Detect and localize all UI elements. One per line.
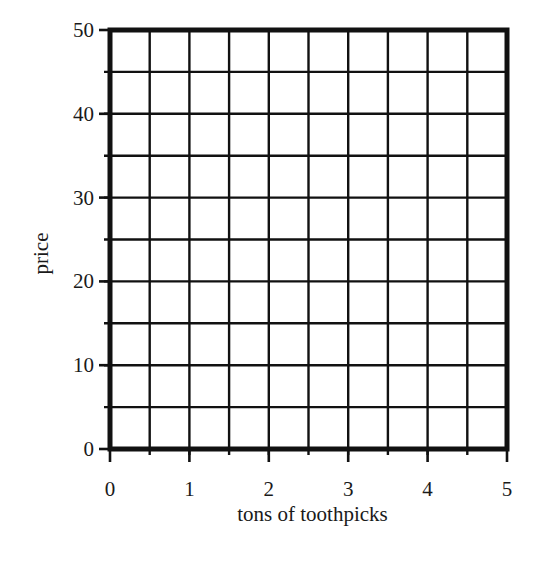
- y-tick-label: 40: [73, 102, 94, 126]
- x-tick-label: 0: [105, 477, 116, 501]
- x-tick-label: 4: [422, 477, 433, 501]
- y-tick-label: 20: [73, 269, 94, 293]
- x-tick-label: 3: [343, 477, 354, 501]
- y-tick-label: 0: [84, 437, 95, 461]
- x-axis-label: tons of toothpicks: [237, 502, 388, 526]
- chart: 01234501020304050tons of toothpicksprice: [0, 0, 535, 562]
- y-tick-label: 50: [73, 18, 94, 42]
- y-tick-label: 10: [73, 353, 94, 377]
- y-tick-label: 30: [73, 186, 94, 210]
- x-tick-label: 5: [502, 477, 513, 501]
- x-tick-label: 2: [264, 477, 275, 501]
- y-axis-label: price: [29, 233, 53, 275]
- x-tick-label: 1: [184, 477, 195, 501]
